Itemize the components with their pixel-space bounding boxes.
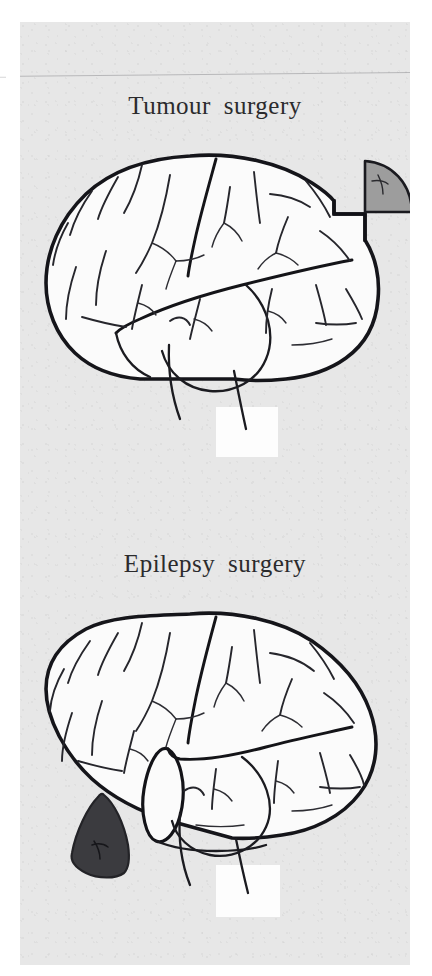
panel-title-epilepsy-surgery: Epilepsy surgery — [20, 551, 410, 576]
brain-diagram-epilepsy — [20, 597, 410, 927]
specimen-wedge-dark — [72, 793, 129, 877]
panel-tumour-surgery: Tumour surgery — [20, 72, 410, 502]
scan-seam-line-left-margin — [0, 77, 6, 78]
panel-title-tumour-surgery: Tumour surgery — [20, 93, 410, 118]
specimen-wedge-light — [365, 161, 410, 212]
figure-page: Tumour surgery — [0, 0, 432, 976]
excised-temporal-lobe-specimen — [20, 597, 410, 927]
panel-epilepsy-surgery: Epilepsy surgery — [20, 530, 410, 960]
scanned-page-sheet: Tumour surgery — [20, 22, 410, 965]
brain-diagram-tumour — [20, 139, 410, 469]
excised-tumour-specimen — [20, 139, 410, 469]
